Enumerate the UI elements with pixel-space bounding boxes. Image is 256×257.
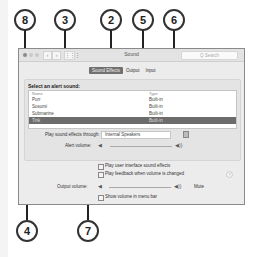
- sound-type: Built-in: [149, 117, 163, 124]
- output-volume-label: Output volume:: [57, 184, 88, 189]
- play-through-label: Play sound effects through:: [45, 132, 99, 137]
- output-device-select[interactable]: Internal Speakers: [101, 131, 171, 139]
- sound-effects-panel: Select an alert sound: Name Type Purr Bu…: [24, 79, 241, 161]
- callout-3: 3: [54, 9, 76, 31]
- sound-name: Sosumi: [32, 103, 47, 110]
- tab-input[interactable]: Input: [142, 67, 158, 74]
- alert-sound-heading: Select an alert sound:: [28, 83, 80, 89]
- sound-type: Built-in: [149, 103, 163, 110]
- output-volume-slider[interactable]: [109, 187, 171, 188]
- window-content: Sound Effects Output Input Select an ale…: [19, 61, 244, 204]
- ui-sound-effects-label: Play user interface sound effects: [105, 163, 170, 168]
- callout-5: 5: [132, 9, 154, 31]
- callout-2: 2: [100, 9, 122, 31]
- volume-low-icon: ◀: [98, 142, 102, 148]
- search-field[interactable]: Q Search: [181, 51, 238, 60]
- callout-8: 8: [14, 9, 36, 31]
- show-volume-menu-bar-label: Show volume in menu bar: [105, 194, 157, 199]
- ui-sound-effects-checkbox[interactable]: [98, 164, 104, 170]
- page-margin: [0, 0, 8, 257]
- list-item[interactable]: Purr Built-in: [29, 96, 236, 103]
- sound-name: Tink: [32, 117, 40, 124]
- list-item[interactable]: Sosumi Built-in: [29, 103, 236, 110]
- tab-sound-effects[interactable]: Sound Effects: [89, 67, 123, 74]
- sound-name: Purr: [32, 96, 41, 103]
- volume-high-icon: ◀)): [175, 142, 182, 148]
- callout-7: 7: [77, 220, 99, 242]
- alert-volume-label: Alert volume:: [65, 143, 91, 148]
- show-volume-menu-bar-checkbox[interactable]: [98, 195, 104, 201]
- volume-feedback-label: Play feedback when volume is changed: [105, 171, 184, 176]
- device-options-button[interactable]: [183, 131, 189, 138]
- sound-name: Submarine: [32, 110, 54, 117]
- list-item-selected[interactable]: Tink Built-in: [29, 117, 236, 124]
- sound-preferences-window: ‹ › ⋮⋮⋮ Sound Q Search Sound Effects Out…: [18, 48, 245, 205]
- sound-type: Built-in: [149, 96, 163, 103]
- alert-volume-slider[interactable]: [110, 146, 172, 147]
- mute-label[interactable]: Mute: [194, 184, 204, 189]
- volume-feedback-checkbox[interactable]: [98, 172, 104, 178]
- help-button[interactable]: ?: [226, 171, 233, 178]
- callout-6: 6: [163, 9, 185, 31]
- volume-high-icon: ◀)): [174, 183, 181, 189]
- tab-bar: Sound Effects Output Input: [89, 67, 158, 74]
- callout-4: 4: [16, 220, 38, 242]
- list-item[interactable]: Submarine Built-in: [29, 110, 236, 117]
- tab-output[interactable]: Output: [123, 67, 143, 74]
- alert-sound-list[interactable]: Name Type Purr Built-in Sosumi Built-in …: [28, 90, 237, 129]
- volume-low-icon: ◀: [98, 183, 102, 189]
- sound-type: Built-in: [149, 110, 163, 117]
